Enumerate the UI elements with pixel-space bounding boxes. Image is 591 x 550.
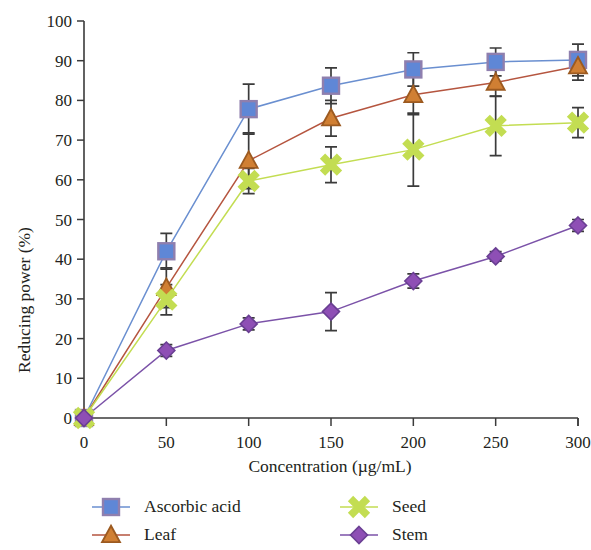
data-point-marker: [240, 151, 258, 168]
y-tick-label: 50: [55, 211, 72, 230]
series-markers-seed: [76, 114, 587, 426]
reducing-power-chart-figure: 0102030405060708090100050100150200250300…: [0, 0, 591, 550]
chart-canvas: 0102030405060708090100050100150200250300…: [0, 0, 591, 550]
data-point-marker: [103, 499, 119, 515]
x-tick-label: 0: [80, 433, 89, 452]
x-tick-label: 200: [401, 433, 427, 452]
data-point-marker: [241, 101, 257, 117]
y-tick-label: 80: [55, 91, 72, 110]
data-point-marker: [323, 303, 340, 320]
y-tick-label: 100: [47, 12, 73, 31]
legend-item-stem[interactable]: Stem: [340, 524, 428, 544]
y-tick-label: 70: [55, 131, 72, 150]
y-axis-title-text: Reducing power (%): [14, 227, 34, 373]
data-point-marker: [405, 61, 421, 77]
data-point-marker: [488, 54, 504, 70]
x-axis-title: Concentration (µg/mL): [248, 456, 411, 476]
legend-label: Seed: [392, 496, 426, 516]
data-point-marker: [158, 243, 174, 259]
data-point-marker: [405, 273, 422, 290]
axes: 0102030405060708090100050100150200250300: [47, 12, 591, 452]
data-point-marker: [323, 78, 339, 94]
x-axis-title-text: Concentration (µg/mL): [248, 456, 411, 476]
data-series: [75, 44, 587, 426]
data-point-marker: [487, 248, 504, 265]
y-tick-label: 90: [55, 52, 72, 71]
chart-legend: Ascorbic acidSeedLeafStem: [92, 496, 428, 544]
y-tick-label: 20: [55, 330, 72, 349]
y-tick-label: 10: [55, 369, 72, 388]
legend-label: Ascorbic acid: [144, 496, 241, 516]
legend-item-ascorbic-acid[interactable]: Ascorbic acid: [92, 496, 241, 516]
x-tick-label: 50: [158, 433, 175, 452]
x-tick-label: 250: [483, 433, 509, 452]
y-tick-label: 30: [55, 290, 72, 309]
series-markers-leaf: [75, 57, 587, 425]
x-tick-label: 100: [236, 433, 262, 452]
legend-label: Stem: [392, 524, 428, 544]
y-tick-label: 0: [64, 409, 73, 428]
legend-item-seed[interactable]: Seed: [340, 496, 426, 516]
error-bars-seed: [160, 96, 584, 315]
data-point-marker: [102, 526, 120, 543]
x-tick-label: 150: [318, 433, 344, 452]
x-tick-label: 300: [565, 433, 591, 452]
y-axis-title: Reducing power (%): [14, 227, 34, 373]
error-bars-leaf: [160, 52, 584, 307]
y-tick-label: 60: [55, 171, 72, 190]
y-tick-label: 40: [55, 250, 72, 269]
error-bars-stem: [160, 220, 584, 357]
legend-item-leaf[interactable]: Leaf: [92, 524, 176, 544]
legend-label: Leaf: [144, 524, 176, 544]
data-point-marker: [351, 527, 368, 544]
